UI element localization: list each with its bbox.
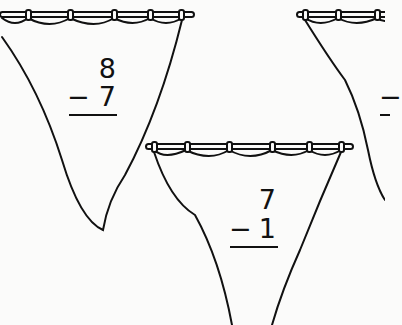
pennant-1 xyxy=(0,10,194,230)
problem-2-answer-line xyxy=(230,246,278,248)
pennant-3 xyxy=(297,10,385,200)
problem-2-bottom: 1 xyxy=(248,215,276,242)
problem-2-top: 7 xyxy=(248,186,276,213)
problem-1-bottom: 7 xyxy=(86,83,116,110)
problem-3-operator: − xyxy=(379,83,402,110)
problem-1-answer-line xyxy=(69,114,117,116)
problem-3-answer-line xyxy=(380,114,390,116)
problem-1-top: 8 xyxy=(86,55,116,82)
